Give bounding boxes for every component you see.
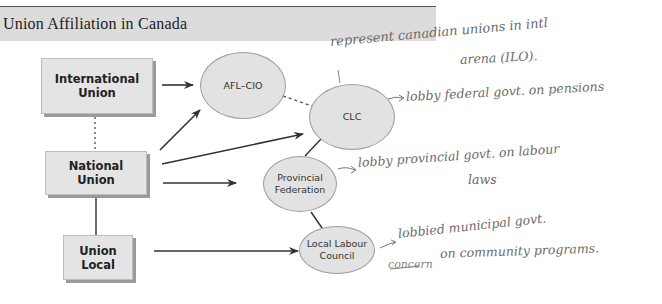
node-label: Union Local bbox=[64, 244, 132, 272]
node-label: AFL–CIO bbox=[224, 80, 263, 92]
node-label: CLC bbox=[343, 111, 362, 123]
dashed-aflcio-to-clc bbox=[283, 96, 312, 106]
node-afl-cio: AFL–CIO bbox=[200, 52, 286, 119]
line-provincial-to-llc bbox=[311, 212, 322, 228]
hw-arrow-provincial bbox=[338, 166, 356, 173]
annotation-local-crossed: concern bbox=[388, 258, 433, 271]
node-label: Provincial Federation bbox=[272, 172, 328, 196]
hw-tick-clc bbox=[338, 70, 340, 83]
node-provincial-federation: Provincial Federation bbox=[263, 156, 337, 212]
arrow-national-to-aflcio bbox=[160, 110, 200, 150]
node-clc: CLC bbox=[309, 84, 395, 150]
line-clc-to-provincial bbox=[305, 138, 322, 156]
hw-arrow-llc bbox=[380, 240, 396, 248]
node-national-union: National Union bbox=[45, 151, 147, 195]
node-international-union: International Union bbox=[41, 58, 153, 114]
annotation-provincial-2: laws bbox=[468, 172, 497, 187]
node-label: National Union bbox=[68, 159, 124, 187]
node-local-labour-council: Local Labour Council bbox=[299, 226, 375, 274]
node-label: Local Labour Council bbox=[306, 238, 368, 262]
node-union-local: Union Local bbox=[63, 235, 133, 280]
node-label: International Union bbox=[42, 72, 152, 100]
hw-arrow-clc bbox=[388, 95, 404, 101]
